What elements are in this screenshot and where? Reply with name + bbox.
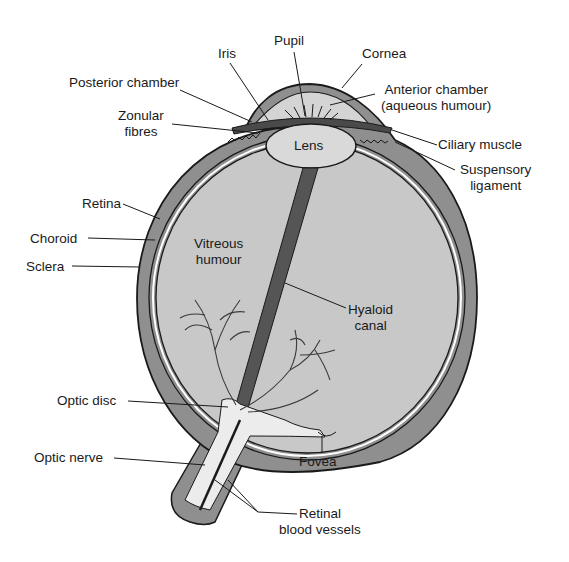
label-anterior-chamber-line2: (aqueous humour): [381, 98, 491, 114]
label-posterior-chamber: Posterior chamber: [69, 75, 179, 91]
label-zonular-line2: fibres: [118, 124, 164, 140]
label-zonular-line1: Zonular: [118, 108, 164, 124]
label-hyaloid-line1: Hyaloid: [348, 302, 393, 318]
label-vitreous-line1: Vitreous: [194, 236, 243, 252]
label-vitreous-line2: humour: [194, 252, 243, 268]
label-retina: Retina: [82, 196, 121, 212]
label-iris: Iris: [218, 46, 236, 62]
label-suspensory-ligament: Suspensory ligament: [460, 162, 531, 194]
label-fovea: Fovea: [299, 454, 337, 470]
label-optic-nerve: Optic nerve: [34, 450, 103, 466]
label-suspensory-line2: ligament: [460, 178, 531, 194]
label-hyaloid-canal: Hyaloid canal: [348, 302, 393, 334]
label-pupil: Pupil: [274, 33, 304, 49]
label-sclera: Sclera: [26, 259, 64, 275]
label-vitreous-humour: Vitreous humour: [194, 236, 243, 268]
label-suspensory-line1: Suspensory: [460, 162, 531, 178]
label-cornea: Cornea: [362, 46, 406, 62]
label-anterior-chamber: Anterior chamber (aqueous humour): [381, 82, 491, 114]
label-retinal-line1: Retinal: [279, 506, 361, 522]
label-retinal-blood-vessels: Retinal blood vessels: [279, 506, 361, 538]
label-choroid: Choroid: [30, 231, 77, 247]
label-anterior-chamber-line1: Anterior chamber: [381, 82, 491, 98]
label-lens: Lens: [294, 138, 323, 154]
label-zonular-fibres: Zonular fibres: [118, 108, 164, 140]
label-retinal-line2: blood vessels: [279, 522, 361, 538]
label-ciliary-muscle: Ciliary muscle: [438, 137, 522, 153]
label-optic-disc: Optic disc: [57, 393, 116, 409]
label-hyaloid-line2: canal: [348, 318, 393, 334]
